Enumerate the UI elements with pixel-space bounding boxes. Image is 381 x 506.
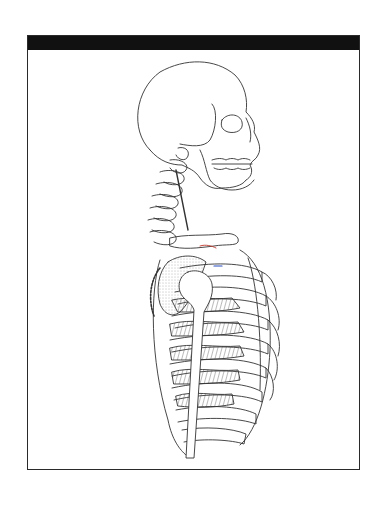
anatomy-illustration: [0, 0, 381, 506]
cervical-spine-icon: [148, 160, 188, 245]
skull-icon: [138, 62, 260, 190]
clavicle-icon: [170, 233, 238, 248]
